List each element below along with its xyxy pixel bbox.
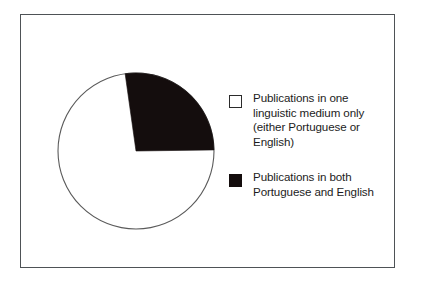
legend-item-label: Publications in both Portuguese and Engl… xyxy=(253,170,409,199)
legend-item-label: Publications in one linguistic medium on… xyxy=(253,91,409,149)
figure-frame-border: Publications in one linguistic medium on… xyxy=(20,14,395,268)
pie-chart-figure: Publications in one linguistic medium on… xyxy=(0,0,421,281)
pie-slice-both-languages[interactable] xyxy=(125,73,214,151)
pie-chart-svg xyxy=(57,71,217,233)
legend-item-both-languages[interactable]: Publications in both Portuguese and Engl… xyxy=(229,170,409,199)
legend-swatch-white-icon xyxy=(229,95,242,108)
legend-swatch-black-icon xyxy=(229,174,242,187)
chart-legend: Publications in one linguistic medium on… xyxy=(229,91,409,200)
legend-item-one-medium[interactable]: Publications in one linguistic medium on… xyxy=(229,91,409,149)
pie-chart xyxy=(57,71,217,233)
